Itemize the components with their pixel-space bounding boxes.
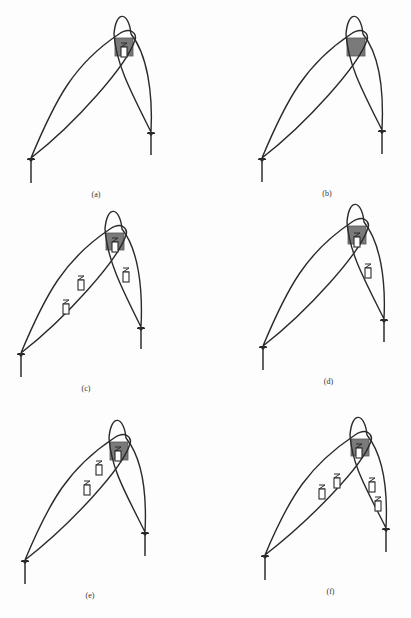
left-antenna-icon [261,555,269,580]
user-device-icon [369,478,375,492]
panel-f: (f) [261,417,390,596]
user-device-icon [96,461,102,475]
user-device-icon [78,276,84,290]
panel-label: (b) [322,189,332,198]
right-antenna-icon [147,132,155,155]
panel-b: (b) [258,16,386,198]
left-antenna-icon [258,158,266,182]
right-antenna-icon [382,528,390,552]
panel-c: (c) [17,211,145,393]
left-antenna-icon [17,353,25,377]
user-device-icon [319,485,325,499]
user-device-icon [123,268,129,282]
right-antenna-icon [380,319,388,342]
panel-label: (e) [86,591,95,600]
panel-label: (a) [92,190,101,199]
panel-label: (c) [82,384,91,393]
beam-diagram: (a)(b)(c)(d)(e)(f) [0,0,411,618]
figure-canvas: (a)(b)(c)(d)(e)(f) [0,0,411,618]
user-device-icon [375,497,381,511]
user-device-icon [63,300,69,314]
left-antenna-icon [21,560,29,584]
right-antenna-icon [378,130,386,154]
left-antenna-icon [259,346,267,370]
right-antenna-icon [137,327,145,349]
panel-label: (d) [324,377,334,386]
right-antenna-icon [141,532,149,556]
user-device-icon [365,264,371,278]
left-antenna-icon [27,158,35,183]
panel-label: (f) [327,587,335,596]
panel-e: (e) [21,420,149,600]
panel-a: (a) [27,16,155,199]
user-device-icon [84,481,90,495]
panel-d: (d) [259,204,388,386]
user-device-icon [334,474,340,488]
